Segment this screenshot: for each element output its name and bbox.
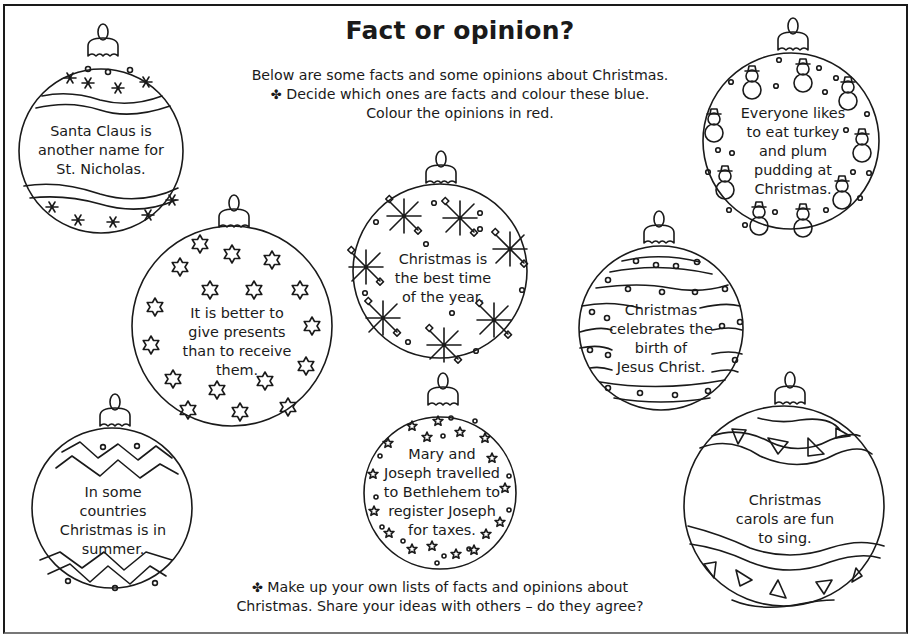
instructions: Below are some facts and some opinions a… [200, 66, 720, 123]
bauble-text-santa[interactable]: Santa Claus is another name for St. Nich… [31, 110, 171, 190]
clover-bullet-icon: ✤ [271, 87, 282, 102]
instruction-line-2-text: Decide which ones are facts and colour t… [286, 86, 649, 102]
instruction-line-3: Colour the opinions in red. [200, 104, 720, 123]
extension-task: ✤ Make up your own lists of facts and op… [200, 578, 680, 616]
clover-bullet-icon: ✤ [252, 580, 263, 595]
bauble-text-bethlehem[interactable]: Mary and Joseph travelled to Bethlehem t… [372, 440, 512, 544]
extension-line-1: ✤ Make up your own lists of facts and op… [200, 578, 680, 597]
instruction-line-1: Below are some facts and some opinions a… [200, 66, 720, 85]
bauble-text-summer[interactable]: In some countries Christmas is in summer… [48, 476, 178, 566]
extension-line-2: Christmas. Share your ideas with others … [200, 597, 680, 616]
bauble-text-birth[interactable]: Christmas celebrates the birth of Jesus … [598, 294, 724, 384]
bauble-text-carols[interactable]: Christmas carols are fun to sing. [720, 486, 850, 552]
bauble-text-presents[interactable]: It is better to give presents than to re… [162, 297, 312, 387]
bauble-text-turkey[interactable]: Everyone likes to eat turkey and plum pu… [720, 96, 866, 206]
page-title: Fact or opinion? [0, 16, 920, 45]
bauble-text-best-time[interactable]: Christmas is the best time of the year. [380, 243, 506, 313]
instruction-line-2: ✤ Decide which ones are facts and colour… [200, 85, 720, 104]
